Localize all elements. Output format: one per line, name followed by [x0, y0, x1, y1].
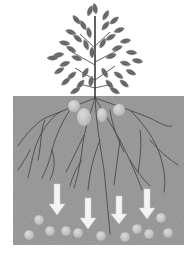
- nutrient-granule: [61, 226, 71, 236]
- nutrient-granule: [156, 213, 166, 223]
- plant: [47, 3, 143, 98]
- nutrient-granule: [68, 100, 80, 112]
- nutrient-granule: [120, 232, 130, 242]
- nutrient-granule: [97, 108, 107, 122]
- nutrient-granule: [132, 224, 142, 234]
- diagram-canvas: [0, 0, 194, 258]
- nutrient-granule: [113, 104, 125, 116]
- nutrient-granule: [163, 228, 173, 238]
- nutrient-granule: [34, 215, 44, 225]
- nutrient-leaching-diagram: [0, 0, 194, 258]
- nutrient-granule: [73, 228, 83, 238]
- nutrient-granule: [77, 108, 91, 126]
- nutrient-granule: [144, 229, 154, 239]
- nutrient-granule: [45, 226, 55, 236]
- nutrient-granule: [96, 231, 106, 241]
- nutrient-granule: [24, 230, 34, 240]
